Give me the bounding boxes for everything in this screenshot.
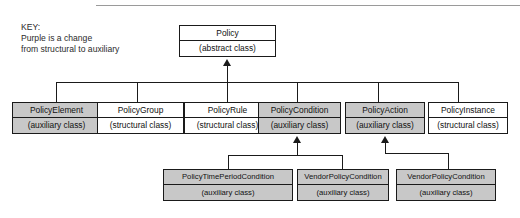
- legend-line-2: from structural to auxiliary: [21, 44, 119, 55]
- class-stereotype-policy: (abstract class): [180, 41, 275, 57]
- class-stereotype-policyinstance: (structural class): [429, 118, 507, 134]
- class-name-policytimeperiodcondition: PolicyTimePeriodCondition: [164, 170, 292, 185]
- connector-drop-vendorpolicycondition-2: [448, 153, 449, 169]
- connector-policy-stem: [227, 66, 228, 82]
- connector-drop-vendorpolicycondition-1: [342, 155, 343, 169]
- class-stereotype-policytimeperiodcondition: (auxiliary class): [164, 185, 292, 201]
- connector-rail-policyaction: [385, 153, 448, 154]
- class-box-policyelement[interactable]: PolicyElement (auxiliary class): [12, 102, 101, 134]
- class-stereotype-vendorpolicycondition-2: (auxiliary class): [397, 185, 495, 201]
- connector-stem-policyaction: [385, 143, 386, 153]
- class-stereotype-policycondition: (auxiliary class): [259, 118, 340, 134]
- class-stereotype-vendorpolicycondition-1: (auxiliary class): [298, 185, 388, 201]
- connector-rail-policycondition: [228, 155, 343, 156]
- inheritance-arrow-to-policy: [223, 59, 231, 66]
- class-name-policygroup: PolicyGroup: [98, 103, 183, 118]
- connector-drop-policygroup: [137, 82, 138, 102]
- class-box-vendorpolicycondition-2[interactable]: VendorPolicyCondition (auxiliary class): [396, 169, 496, 201]
- class-stereotype-policyelement: (auxiliary class): [13, 118, 100, 134]
- class-box-policycondition[interactable]: PolicyCondition (auxiliary class): [258, 102, 341, 134]
- legend-key: KEY: Purple is a change from structural …: [21, 22, 119, 56]
- class-box-vendorpolicycondition-1[interactable]: VendorPolicyCondition (auxiliary class): [297, 169, 389, 201]
- class-box-policyaction[interactable]: PolicyAction (auxiliary class): [345, 102, 425, 134]
- connector-drop-policyinstance: [458, 82, 459, 102]
- class-name-vendorpolicycondition-2: VendorPolicyCondition: [397, 170, 495, 185]
- connector-drop-policyrule: [227, 82, 228, 102]
- class-name-policyelement: PolicyElement: [13, 103, 100, 118]
- class-stereotype-policyaction: (auxiliary class): [346, 118, 424, 134]
- class-stereotype-policygroup: (structural class): [98, 118, 183, 134]
- class-box-policy[interactable]: Policy (abstract class): [179, 25, 276, 57]
- inheritance-arrow-to-policycondition: [293, 136, 301, 143]
- class-diagram: KEY: Purple is a change from structural …: [0, 0, 520, 218]
- top-divider-rule: [96, 5, 520, 6]
- connector-drop-policytimeperiodcondition: [228, 155, 229, 169]
- class-box-policygroup[interactable]: PolicyGroup (structural class): [97, 102, 184, 134]
- connector-drop-policyaction: [378, 82, 379, 102]
- class-name-vendorpolicycondition-1: VendorPolicyCondition: [298, 170, 388, 185]
- legend-line-1: Purple is a change: [21, 33, 119, 44]
- connector-stem-policycondition: [297, 143, 298, 155]
- class-name-policy: Policy: [180, 26, 275, 41]
- class-name-policyinstance: PolicyInstance: [429, 103, 507, 118]
- inheritance-arrow-to-policyaction: [381, 136, 389, 143]
- class-box-policyinstance[interactable]: PolicyInstance (structural class): [428, 102, 508, 134]
- class-name-policycondition: PolicyCondition: [259, 103, 340, 118]
- connector-drop-policycondition: [297, 82, 298, 102]
- class-box-policytimeperiodcondition[interactable]: PolicyTimePeriodCondition (auxiliary cla…: [163, 169, 293, 201]
- legend-title: KEY:: [21, 22, 119, 33]
- connector-drop-policyelement: [56, 82, 57, 102]
- class-name-policyaction: PolicyAction: [346, 103, 424, 118]
- connector-bus-level2: [56, 82, 458, 83]
